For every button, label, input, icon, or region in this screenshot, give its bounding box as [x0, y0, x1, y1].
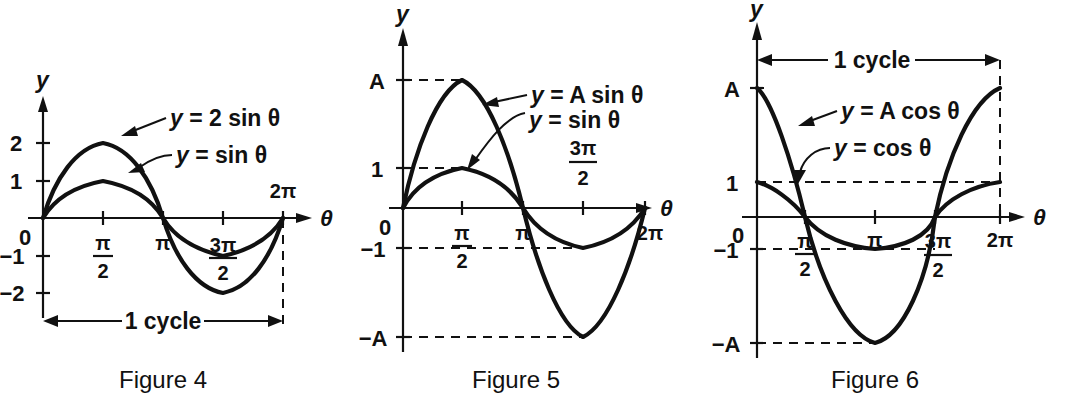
- figure-4-plot: y θ 2 1 0 −1 −2 π 2 π 3π 2 2π: [0, 0, 357, 409]
- svg-text:2: 2: [217, 262, 228, 284]
- curve-label-Asin-theta: y = A sin θ: [482, 82, 643, 108]
- svg-text:3π: 3π: [925, 230, 951, 252]
- y-tick-label-neg2: −2: [0, 281, 25, 306]
- figure-6-plot: y θ A 1 0 −1 −A π 2 π 3π 2 2π: [700, 0, 1071, 409]
- svg-text:y = 2 sin θ: y = 2 sin θ: [169, 105, 280, 131]
- y-axis-label: y: [749, 0, 764, 22]
- y-tick-label-1: 1: [10, 169, 22, 194]
- x-axis: [28, 213, 312, 223]
- x-tick-label-pi: π: [515, 222, 530, 244]
- figure-caption: Figure 5: [472, 366, 560, 393]
- curve-Acos-theta: [757, 88, 1000, 343]
- x-axis-label: θ: [660, 195, 673, 221]
- y-tick-label-1: 1: [371, 157, 383, 182]
- curve-label-cos-theta: y = cos θ: [794, 135, 931, 184]
- svg-text:3π: 3π: [570, 137, 596, 159]
- y-axis: [752, 22, 762, 358]
- svg-text:y = A cos θ: y = A cos θ: [840, 98, 960, 124]
- x-tick-label-3pi-over-2: 3π 2: [209, 234, 237, 284]
- svg-text:2: 2: [799, 258, 810, 280]
- curve-label-Acos-theta: y = A cos θ: [798, 98, 960, 126]
- figure-caption: Figure 6: [831, 366, 919, 393]
- svg-text:π: π: [454, 222, 469, 244]
- figure-caption: Figure 4: [119, 366, 207, 393]
- x-tick-label-2pi: 2π: [270, 180, 296, 202]
- figure-5-plot: y θ A 1 0 −1 −A π 2 π 3π 2 2π: [357, 0, 700, 409]
- figure-panel: y θ 2 1 0 −1 −2 π 2 π 3π 2 2π: [0, 0, 1071, 409]
- x-axis-label: θ: [1033, 204, 1046, 230]
- svg-text:y = sin θ: y = sin θ: [528, 107, 620, 133]
- cycle-annotation: 1 cycle: [757, 47, 1000, 73]
- y-tick-label-neg1: −1: [713, 238, 738, 263]
- y-tick-label-neg1: −1: [360, 237, 385, 262]
- y-tick-label-A: A: [724, 77, 740, 102]
- y-tick-label-A: A: [369, 69, 385, 94]
- x-tick-label-pi-over-2: π 2: [452, 222, 472, 272]
- cycle-label: 1 cycle: [125, 308, 202, 334]
- x-tick-label-pi-over-2: π 2: [795, 230, 815, 280]
- x-axis-label: θ: [320, 205, 333, 231]
- y-tick-label-neg1: −1: [0, 244, 25, 269]
- x-tick-label-2pi: 2π: [637, 222, 663, 244]
- svg-text:y = A sin θ: y = A sin θ: [530, 82, 643, 108]
- svg-text:2: 2: [577, 167, 588, 189]
- svg-text:3π: 3π: [210, 234, 236, 256]
- svg-text:2: 2: [932, 259, 943, 281]
- cycle-annotation: 1 cycle: [43, 308, 283, 334]
- figure-5: y θ A 1 0 −1 −A π 2 π 3π 2 2π: [357, 0, 700, 409]
- figure-4: y θ 2 1 0 −1 −2 π 2 π 3π 2 2π: [0, 0, 357, 409]
- x-tick-label-pi-over-2: π 2: [93, 232, 113, 282]
- cycle-label: 1 cycle: [834, 47, 911, 73]
- y-tick-label-2: 2: [10, 131, 22, 156]
- curve-label-2sin-theta: y = 2 sin θ: [121, 105, 280, 136]
- x-tick-label-3pi-over-2: 3π 2: [924, 230, 952, 281]
- y-tick-label-negA: −A: [359, 326, 388, 351]
- x-tick-label-3pi-over-2: 3π 2: [569, 137, 597, 189]
- y-tick-label-negA: −A: [712, 332, 741, 357]
- x-tick-label-2pi: 2π: [987, 229, 1013, 251]
- x-axis: [742, 212, 1025, 222]
- svg-text:π: π: [95, 232, 110, 254]
- figure-6: y θ A 1 0 −1 −A π 2 π 3π 2 2π: [700, 0, 1071, 409]
- svg-text:2: 2: [456, 250, 467, 272]
- svg-text:y = cos θ: y = cos θ: [833, 135, 931, 161]
- x-tick-label-pi: π: [867, 229, 882, 251]
- svg-text:y = sin θ: y = sin θ: [175, 142, 267, 168]
- svg-text:2: 2: [97, 260, 108, 282]
- curve-label-sin-theta: y = sin θ: [128, 142, 267, 173]
- y-axis-label: y: [395, 1, 410, 27]
- y-tick-label-1: 1: [726, 171, 738, 196]
- x-tick-label-pi: π: [155, 232, 170, 254]
- y-axis-label: y: [35, 67, 50, 93]
- svg-text:π: π: [797, 230, 812, 252]
